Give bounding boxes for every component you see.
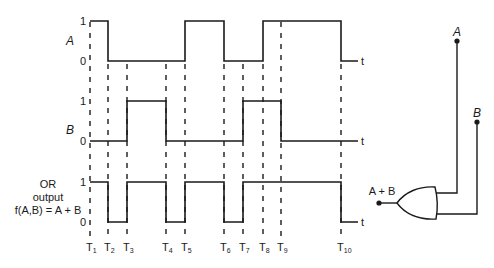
time-marker-subscript: 10 xyxy=(344,247,352,254)
time-marker-subscript: 3 xyxy=(130,247,134,254)
output-terminal xyxy=(376,200,381,205)
time-marker-subscript: 6 xyxy=(227,247,231,254)
time-marker-subscript: 7 xyxy=(246,247,250,254)
time-marker-label-t6: T6 xyxy=(220,241,231,254)
time-marker-subscript: 2 xyxy=(111,247,115,254)
time-marker-label-t2: T2 xyxy=(104,241,115,254)
input-a-wire xyxy=(436,41,457,193)
time-marker-label-t10: T10 xyxy=(337,241,352,254)
time-marker-subscript: 9 xyxy=(284,247,288,254)
signal-label-or: OR xyxy=(40,178,57,190)
time-marker-subscript: 8 xyxy=(266,247,270,254)
time-marker-label-t4: T4 xyxy=(162,241,173,254)
gate-input-a-label: A xyxy=(452,25,461,39)
waveform-labels: 10tA10tB10tORoutputf(A,B) = A + B xyxy=(15,15,364,228)
input-a-terminal xyxy=(454,38,459,43)
time-marker-label-t1: T1 xyxy=(86,241,97,254)
signal-label-or: f(A,B) = A + B xyxy=(15,204,82,216)
low-level-label-or: 0 xyxy=(80,216,86,228)
or-gate-symbol xyxy=(397,187,437,219)
time-marker-labels: T1T2T3T4T5T6T7T8T9T10 xyxy=(86,241,352,254)
waveform-a xyxy=(90,21,358,61)
time-marker-label-t8: T8 xyxy=(259,241,270,254)
high-level-label-or: 1 xyxy=(80,176,86,188)
high-level-label-a: 1 xyxy=(80,15,86,27)
gate-output-label: A + B xyxy=(369,185,396,197)
input-b-terminal xyxy=(474,119,479,124)
time-marker-subscript: 4 xyxy=(169,247,173,254)
diagram-canvas: 10tA10tB10tORoutputf(A,B) = A + B T1T2T3… xyxy=(0,0,494,268)
or-gate-timing-diagram: 10tA10tB10tORoutputf(A,B) = A + B T1T2T3… xyxy=(0,0,494,268)
signal-label-a: A xyxy=(65,34,74,48)
time-marker-label-t7: T7 xyxy=(239,241,250,254)
high-level-label-b: 1 xyxy=(80,95,86,107)
time-marker-subscript: 5 xyxy=(188,247,192,254)
time-marker-label-t9: T9 xyxy=(277,241,288,254)
time-axis-label: t xyxy=(361,55,364,67)
waveform-or xyxy=(90,182,358,222)
gate-input-b-label: B xyxy=(473,106,481,120)
time-axis-label: t xyxy=(361,135,364,147)
time-marker-label-t5: T5 xyxy=(181,241,192,254)
signal-label-or: output xyxy=(33,191,64,203)
low-level-label-a: 0 xyxy=(80,55,86,67)
signal-label-b: B xyxy=(66,123,74,137)
or-gate-schematic: A B A + B xyxy=(369,25,481,219)
low-level-label-b: 0 xyxy=(80,135,86,147)
time-axis-label: t xyxy=(361,216,364,228)
time-marker-label-t3: T3 xyxy=(123,241,134,254)
time-marker-subscript: 1 xyxy=(93,247,97,254)
